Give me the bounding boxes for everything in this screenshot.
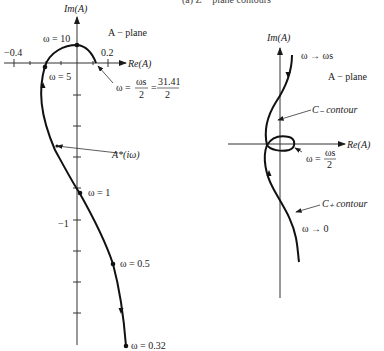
right-plane-label: A − plane bbox=[328, 71, 368, 82]
c-minus-contour bbox=[266, 55, 292, 145]
point-w1 bbox=[78, 191, 83, 196]
svg-text:ω =: ω = bbox=[306, 153, 321, 164]
left-plot: Im(A) Re(A) A − plane −0.4 0.2 −1 ω = 10… bbox=[4, 3, 181, 351]
svg-text:=: = bbox=[151, 82, 157, 93]
point-w05 bbox=[111, 262, 116, 267]
left-im-label: Im(A) bbox=[63, 3, 88, 15]
label-c-minus: C₋ contour bbox=[312, 104, 357, 115]
left-plane-label: A − plane bbox=[108, 27, 148, 38]
svg-text:31.41: 31.41 bbox=[158, 76, 181, 87]
point-w032 bbox=[124, 344, 129, 349]
label-w-to-0: ω → 0 bbox=[302, 223, 329, 234]
left-re-label: Re(A) bbox=[127, 58, 152, 70]
diagram-canvas: (a) Z − plane contours bbox=[0, 0, 384, 351]
label-w1: ω = 1 bbox=[88, 187, 110, 198]
right-half-label: ω = ωs 2 bbox=[295, 147, 336, 170]
svg-text:2: 2 bbox=[139, 89, 144, 100]
svg-text:ω =: ω = bbox=[116, 82, 131, 93]
c-plus-contour bbox=[265, 145, 299, 262]
point-w5 bbox=[43, 65, 48, 70]
label-c-plus: C₊ contour bbox=[322, 198, 367, 209]
label-w05: ω = 0.5 bbox=[120, 258, 150, 269]
tick-neg-0-4: −0.4 bbox=[4, 47, 22, 58]
curve-label-a-star: A*(iω) bbox=[111, 149, 140, 161]
label-w5: ω = 5 bbox=[49, 71, 71, 82]
half-sampling-label: ω = ωs 2 = 31.41 2 bbox=[116, 76, 181, 100]
label-w032: ω = 0.32 bbox=[131, 340, 166, 351]
tick-0-2: 0.2 bbox=[101, 47, 114, 58]
right-re-label: Re(A) bbox=[346, 139, 371, 151]
point-w10 bbox=[75, 43, 80, 48]
svg-text:2: 2 bbox=[165, 89, 170, 100]
svg-text:2: 2 bbox=[327, 159, 332, 170]
figure-caption: (a) Z − plane contours bbox=[182, 0, 271, 6]
left-locus-curve bbox=[41, 45, 126, 346]
right-im-label: Im(A) bbox=[266, 32, 291, 44]
label-w-to-ws: ω → ωs bbox=[301, 50, 333, 61]
tick-neg-1: −1 bbox=[58, 218, 69, 229]
svg-text:ωs: ωs bbox=[136, 76, 147, 87]
right-plot: Im(A) Re(A) A − plane ω → ωs C₋ contour … bbox=[228, 32, 371, 298]
svg-text:ωs: ωs bbox=[325, 147, 336, 158]
label-w10: ω = 10 bbox=[43, 33, 70, 44]
